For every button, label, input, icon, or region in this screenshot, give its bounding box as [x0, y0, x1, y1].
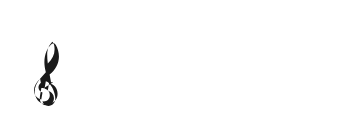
- music-notation-figure: [0, 0, 354, 117]
- treble-clef-icon: [34, 42, 59, 106]
